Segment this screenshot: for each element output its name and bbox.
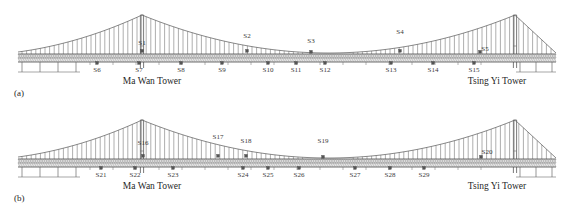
sensor-marker-s15 (473, 62, 476, 65)
bridge-elevation-panel-b: S16S17S18S19S20S21S22S23S24S25S26S27S28S… (0, 105, 568, 213)
sensor-marker-s2 (246, 49, 249, 52)
sensor-label-s12: S12 (320, 67, 331, 74)
sensor-marker-s26 (298, 167, 301, 170)
sensor-label-s11: S11 (291, 67, 302, 74)
sensor-label-s4: S4 (396, 29, 403, 36)
tower-label-ma-wan: Ma Wan Tower (123, 181, 181, 191)
sensor-label-s18: S18 (241, 138, 252, 145)
deck (18, 54, 556, 62)
sensor-label-s17: S17 (213, 134, 224, 141)
sensor-marker-s7 (138, 62, 141, 65)
span-tick-group (90, 62, 481, 65)
sensor-label-s6: S6 (93, 67, 100, 74)
sensor-marker-s8 (180, 62, 183, 65)
sensor-label-s1: S1 (138, 40, 145, 47)
sensor-label-s23: S23 (168, 172, 179, 179)
sensor-marker-s13 (390, 62, 393, 65)
sensor-marker-s19 (322, 155, 325, 158)
bridge-drawing-b (0, 105, 568, 213)
sensor-label-s2: S2 (243, 33, 250, 40)
sensor-label-s25: S25 (263, 172, 274, 179)
sensor-label-s10: S10 (263, 67, 274, 74)
sensor-label-s22: S22 (130, 172, 141, 179)
sensor-marker-s25 (267, 167, 270, 170)
sensor-label-s14: S14 (428, 67, 439, 74)
sensor-label-s20: S20 (482, 149, 493, 156)
sensor-label-s16: S16 (138, 140, 149, 147)
sensor-marker-s27 (354, 167, 357, 170)
sensor-marker-s14 (432, 62, 435, 65)
sensor-marker-s12 (324, 62, 327, 65)
sensor-label-s19: S19 (318, 138, 329, 145)
sensor-label-s8: S8 (177, 67, 184, 74)
sensor-marker-s24 (242, 167, 245, 170)
sensor-marker-s6 (96, 62, 99, 65)
sensor-label-s15: S15 (469, 67, 480, 74)
sensor-label-s21: S21 (96, 172, 107, 179)
sensor-label-s24: S24 (238, 172, 249, 179)
sensor-marker-s17 (217, 154, 220, 157)
sensor-label-s27: S27 (350, 172, 361, 179)
sensor-label-s5: S5 (481, 46, 488, 53)
main-cable (18, 15, 556, 53)
sensor-marker-s23 (172, 167, 175, 170)
sensor-label-s9: S9 (218, 67, 225, 74)
sensor-label-s26: S26 (294, 172, 305, 179)
panel-tag: (a) (14, 88, 24, 98)
sensor-marker-s1 (141, 49, 144, 52)
sensor-label-s28: S28 (385, 172, 396, 179)
sensor-label-s7: S7 (135, 67, 142, 74)
sensor-marker-s9 (221, 62, 224, 65)
sensor-marker-s11 (295, 62, 298, 65)
tower-label-ma-wan: Ma Wan Tower (123, 76, 181, 86)
sensor-label-s3: S3 (307, 38, 314, 45)
panel-tag: (b) (14, 193, 25, 203)
sensor-label-s29: S29 (419, 172, 430, 179)
main-cable (18, 120, 556, 158)
tower-label-tsing-yi: Tsing Yi Tower (468, 181, 526, 191)
bridge-elevation-panel-a: S1S2S3S4S5S6S7S8S9S10S11S12S13S14S15Ma W… (0, 0, 568, 108)
sensor-marker-s21 (100, 167, 103, 170)
sensor-marker-s28 (389, 167, 392, 170)
deck (18, 159, 556, 167)
sensor-marker-s4 (399, 49, 402, 52)
sensor-marker-s22 (134, 167, 137, 170)
sensor-marker-s16 (142, 154, 145, 157)
tower-label-tsing-yi: Tsing Yi Tower (468, 76, 526, 86)
sensor-marker-s10 (267, 62, 270, 65)
sensor-marker-s3 (310, 50, 313, 53)
sensor-marker-s18 (245, 154, 248, 157)
bridge-drawing-a (0, 0, 568, 108)
sensor-label-s13: S13 (386, 67, 397, 74)
hanger-group (22, 120, 551, 159)
span-tick-group (90, 167, 481, 170)
sensor-marker-s29 (423, 167, 426, 170)
hanger-group (22, 15, 551, 54)
